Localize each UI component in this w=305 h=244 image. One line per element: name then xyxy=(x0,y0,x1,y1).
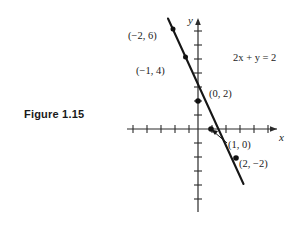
point-label-2-neg2: (2, −2) xyxy=(239,158,268,169)
point-label-0-2: (0, 2) xyxy=(209,88,232,99)
y-axis xyxy=(194,18,202,212)
data-point xyxy=(171,27,176,32)
data-point xyxy=(195,98,201,104)
y-axis-label: y xyxy=(188,14,193,26)
x-axis xyxy=(127,125,277,133)
figure-container: Figure 1.15 xyxy=(0,0,305,244)
x-axis-label: x xyxy=(279,131,284,143)
point-label-1-0: (1, 0) xyxy=(228,139,251,150)
point-label-neg2-6: (−2, 6) xyxy=(128,30,157,41)
data-point xyxy=(233,155,239,161)
equation-label: 2x + y = 2 xyxy=(233,52,276,63)
point-label-neg1-4: (−1, 4) xyxy=(136,65,165,76)
plotted-line xyxy=(168,19,244,185)
data-point xyxy=(183,55,188,60)
